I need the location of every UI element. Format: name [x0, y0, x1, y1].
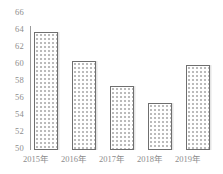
bar-2015	[34, 32, 58, 150]
y-axis-tick-label: 52	[0, 127, 24, 136]
y-axis-tick-label: 54	[0, 110, 24, 119]
x-axis-tick-label-2019: 2019年	[158, 154, 218, 164]
bar-2017	[110, 86, 134, 150]
bar-2019	[186, 65, 210, 150]
bar-2018	[148, 103, 172, 150]
plot-area	[30, 12, 219, 150]
y-axis-tick-label: 60	[0, 59, 24, 68]
y-axis-tick-label: 66	[0, 8, 24, 17]
y-axis-tick-label: 58	[0, 76, 24, 85]
y-axis-tick-label: 50	[0, 144, 24, 153]
y-axis-tick-label: 62	[0, 42, 24, 51]
y-axis-tick-label: 64	[0, 25, 24, 34]
bar-chart: 66 64 62 60 58 56 54 52 50 2015年 2016年 2…	[0, 0, 223, 174]
bar-2016	[72, 61, 96, 150]
y-axis-tick-label: 56	[0, 93, 24, 102]
